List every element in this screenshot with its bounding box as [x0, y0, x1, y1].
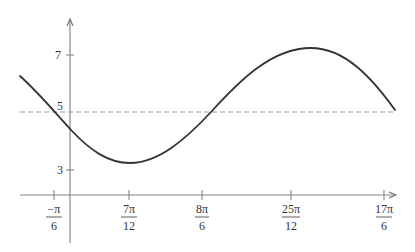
x-tick-label-7pi-12: 7π 12: [121, 202, 137, 233]
y-tick-label-7: 7: [55, 48, 61, 62]
svg-text:−π: −π: [48, 202, 61, 216]
svg-text:12: 12: [285, 219, 297, 233]
svg-text:7π: 7π: [123, 202, 135, 216]
svg-text:6: 6: [199, 219, 205, 233]
svg-text:8π: 8π: [196, 202, 208, 216]
x-tick-label-neg-pi-6: −π 6: [46, 202, 62, 233]
x-tick-label-25pi-12: 25π 12: [282, 202, 300, 233]
x-tick-label-17pi-6: 17π 6: [375, 202, 393, 233]
svg-text:25π: 25π: [282, 202, 300, 216]
svg-text:6: 6: [51, 219, 57, 233]
x-tick-label-8pi-6: 8π 6: [195, 202, 209, 233]
y-tick-label-5: 5: [57, 99, 63, 113]
svg-text:17π: 17π: [375, 202, 393, 216]
sinusoid-curve: [20, 48, 395, 163]
sinusoid-chart: 7 5 3 −π 6 7π 12 8π 6 25π 12 17π 6: [0, 0, 415, 252]
svg-text:12: 12: [123, 219, 135, 233]
y-tick-label-3: 3: [57, 163, 63, 177]
svg-text:6: 6: [381, 219, 387, 233]
